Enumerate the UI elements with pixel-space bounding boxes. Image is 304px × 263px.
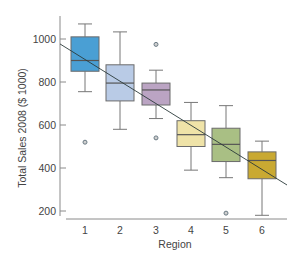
box-region-1 xyxy=(71,24,99,144)
box-iqr xyxy=(248,152,276,179)
box-region-5 xyxy=(212,106,240,215)
y-tick-label: 1000 xyxy=(33,33,57,45)
outlier-point xyxy=(83,140,87,144)
x-tick-label: 3 xyxy=(153,224,159,236)
y-tick-label: 200 xyxy=(38,205,56,217)
outlier-point xyxy=(224,211,228,215)
x-axis: 123456 xyxy=(66,219,287,236)
box-region-2 xyxy=(106,32,134,129)
y-axis: 2004006008001000 xyxy=(33,16,66,217)
y-tick-label: 600 xyxy=(38,119,56,131)
box-iqr xyxy=(177,121,205,147)
trend-line xyxy=(60,44,287,185)
y-axis-title: Total Sales 2008 ($ 1000) xyxy=(16,68,28,188)
x-tick-label: 1 xyxy=(82,224,88,236)
x-tick-label: 2 xyxy=(117,224,123,236)
y-tick-label: 400 xyxy=(38,162,56,174)
box-series xyxy=(71,24,276,215)
outlier-point xyxy=(154,136,158,140)
y-tick-label: 800 xyxy=(38,76,56,88)
box-iqr xyxy=(142,83,170,105)
x-tick-label: 6 xyxy=(259,224,265,236)
x-tick-label: 5 xyxy=(223,224,229,236)
outlier-point xyxy=(154,42,158,46)
box-region-3 xyxy=(142,42,170,140)
x-axis-title: Region xyxy=(158,238,191,250)
box-region-6 xyxy=(248,141,276,215)
box-region-4 xyxy=(177,102,205,170)
boxplot-chart: 2004006008001000 123456 Region Total Sal… xyxy=(0,0,304,263)
x-tick-label: 4 xyxy=(188,224,194,236)
